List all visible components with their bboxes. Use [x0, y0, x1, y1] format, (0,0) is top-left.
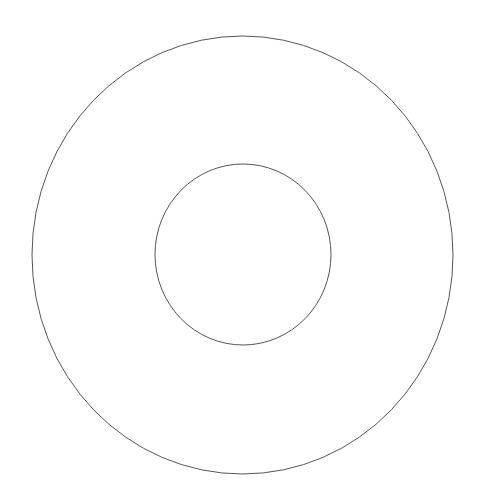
- diagram-canvas: [0, 0, 483, 495]
- inner-circle: [155, 164, 331, 345]
- concentric-circles-diagram: [0, 0, 483, 495]
- outer-circle: [32, 36, 453, 474]
